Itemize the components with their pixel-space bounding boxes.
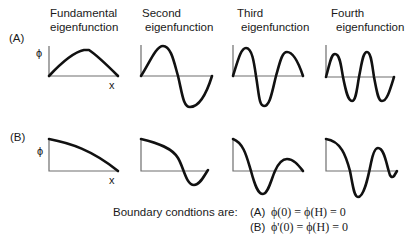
plot-a-third <box>233 45 303 106</box>
plot-a-fourth <box>326 45 395 101</box>
boundary-condition-b-label: (B) <box>250 220 265 234</box>
plot-a-second <box>141 45 212 107</box>
axes <box>233 139 303 171</box>
plot-a-fundamental <box>49 46 118 76</box>
boundary-conditions-intro: Boundary condtions are: <box>113 205 238 219</box>
plot-b-fourth <box>326 139 397 197</box>
boundary-condition-a-label: (A) <box>250 205 265 219</box>
eigenfunction-curve <box>49 139 118 171</box>
boundary-condition-a-equation: ϕ(0) = ϕ(H) = 0 <box>271 205 346 219</box>
plot-b-third <box>233 139 303 194</box>
boundary-condition-b-equation: ϕ'(0) = ϕ(H) = 0 <box>271 220 348 234</box>
plot-b-fundamental <box>49 139 118 171</box>
eigenfunction-curve <box>326 139 397 197</box>
eigenfunction-plots <box>0 0 410 238</box>
plot-b-second <box>141 139 208 185</box>
eigenfunction-curve <box>49 50 118 76</box>
axes <box>49 139 118 171</box>
eigenfunction-curve <box>141 139 208 185</box>
eigenfunction-curve <box>233 48 303 106</box>
eigenfunction-curve <box>233 139 303 194</box>
